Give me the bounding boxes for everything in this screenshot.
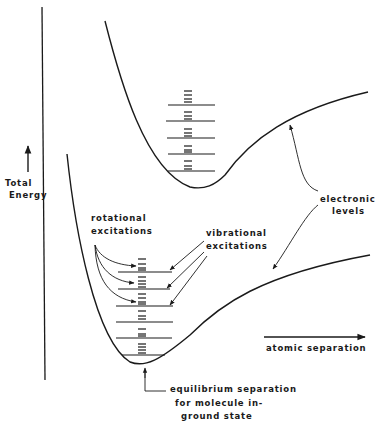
upper-potential-curve bbox=[105, 21, 368, 188]
svg-text:Energy: Energy bbox=[9, 190, 47, 200]
svg-text:rotational: rotational bbox=[91, 213, 146, 223]
svg-text:equilibrium separation: equilibrium separation bbox=[170, 384, 297, 394]
ground-potential-curve bbox=[67, 154, 370, 364]
potential-energy-diagram: Total Energy bbox=[0, 0, 379, 427]
svg-text:atomic separation: atomic separation bbox=[266, 343, 366, 353]
svg-text:for molecule in-: for molecule in- bbox=[175, 398, 263, 408]
atomic-separation-label: atomic separation bbox=[264, 337, 366, 353]
svg-text:vibrational: vibrational bbox=[206, 228, 267, 238]
upper-vibrational-levels bbox=[166, 91, 215, 171]
ground-vibrational-levels bbox=[116, 259, 173, 355]
svg-text:electronic: electronic bbox=[320, 194, 376, 204]
svg-text:levels: levels bbox=[332, 206, 365, 216]
svg-text:excitations: excitations bbox=[91, 226, 153, 236]
equilibrium-separation-annotation: equilibrium separation for molecule in- … bbox=[145, 368, 297, 421]
svg-text:ground state: ground state bbox=[181, 411, 253, 421]
total-energy-label: Total Energy bbox=[5, 146, 47, 200]
electronic-levels-annotation: electronic levels bbox=[273, 125, 376, 269]
svg-text:Total: Total bbox=[5, 178, 32, 188]
svg-text:excitations: excitations bbox=[206, 241, 268, 251]
vibrational-excitations-annotation: vibrational excitations bbox=[167, 228, 268, 305]
